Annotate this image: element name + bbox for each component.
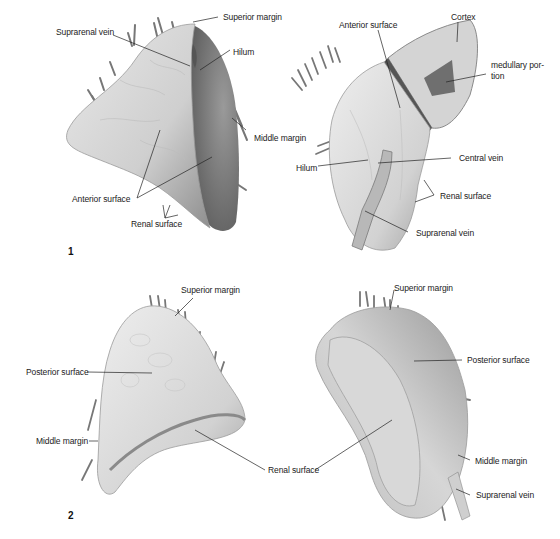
fig2-left-gland <box>82 296 245 494</box>
figure-number-1: 1 <box>68 246 74 257</box>
label-suprarenal-vein-cut: Suprarenal vein <box>416 228 474 238</box>
label-medullary-portion-1: medullary por- <box>491 60 544 70</box>
label-middle-margin-2r: Middle margin <box>475 456 527 466</box>
label-renal-surface: Renal surface <box>131 219 182 229</box>
label-middle-margin: Middle margin <box>254 133 306 143</box>
label-suprarenal-vein: Suprarenal vein <box>56 27 114 37</box>
label-central-vein: Central vein <box>459 153 503 163</box>
label-anterior-surface-cut: Anterior surface <box>339 20 397 30</box>
figure-number-2: 2 <box>68 510 74 521</box>
fig2-right-gland <box>316 292 470 520</box>
label-superior-margin-2r: Superior margin <box>394 283 453 293</box>
label-cortex: Cortex <box>451 12 475 22</box>
label-hilum: Hilum <box>233 47 254 57</box>
label-suprarenal-vein-2r: Suprarenal vein <box>476 490 534 500</box>
label-medullary-portion-2: tion <box>491 71 504 81</box>
label-posterior-surface-2: Posterior surface <box>26 367 89 377</box>
label-posterior-surface-2r: Posterior surface <box>467 355 530 365</box>
label-renal-surface-cut: Renal surface <box>440 191 491 201</box>
label-superior-margin: Superior margin <box>223 12 282 22</box>
label-superior-margin-2: Superior margin <box>181 285 240 295</box>
label-middle-margin-2: Middle margin <box>36 436 88 446</box>
label-renal-surface-2: Renal surface <box>268 465 319 475</box>
label-hilum-cut: Hilum <box>296 163 317 173</box>
label-anterior-surface: Anterior surface <box>72 194 130 204</box>
